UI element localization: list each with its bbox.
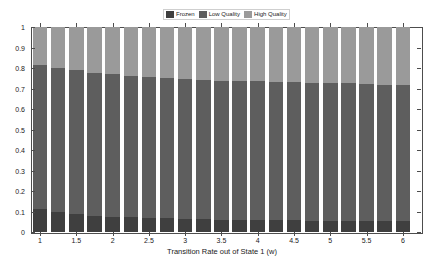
x-tick-mark	[221, 232, 222, 236]
bar-stack	[377, 27, 392, 232]
bar-segment-frozen	[69, 214, 84, 232]
y-tick-label: 0.2	[15, 188, 25, 195]
plot-area: 00.10.20.30.40.50.60.70.80.9111.522.533.…	[31, 27, 421, 232]
x-tick-mark	[403, 232, 404, 236]
bar-segment-low-quality	[124, 76, 139, 218]
bar-segment-frozen	[178, 219, 193, 232]
bar-stack	[87, 27, 102, 232]
legend-swatch-icon	[199, 11, 207, 18]
bar-segment-low-quality	[305, 83, 320, 221]
bar-segment-low-quality	[396, 85, 411, 221]
y-tick-mark-right	[417, 109, 421, 110]
y-tick-mark	[31, 130, 35, 131]
bar-segment-low-quality	[105, 74, 120, 216]
legend-swatch-icon	[166, 11, 174, 18]
bar-segment-low-quality	[51, 68, 66, 213]
bar-segment-frozen	[287, 220, 302, 232]
y-tick-mark-right	[417, 48, 421, 49]
y-tick-label: 0.1	[15, 208, 25, 215]
bar-stack	[51, 27, 66, 232]
x-axis-label: Transition Rate out of State 1 (w)	[0, 247, 444, 256]
bar-stack	[160, 27, 175, 232]
bar-segment-high-quality	[305, 27, 320, 83]
y-tick-label: 0.7	[15, 85, 25, 92]
bar-segment-high-quality	[33, 27, 48, 65]
bar-segment-high-quality	[341, 27, 356, 83]
bar-segment-high-quality	[214, 27, 229, 81]
bar-segment-high-quality	[51, 27, 66, 68]
bar-segment-high-quality	[396, 27, 411, 85]
bar-segment-frozen	[250, 220, 265, 232]
x-tick-label: 4.5	[289, 237, 299, 244]
y-tick-label: 0.9	[15, 44, 25, 51]
x-tick-label: 4	[256, 237, 260, 244]
y-tick-mark-right	[417, 68, 421, 69]
bar-segment-low-quality	[323, 83, 338, 220]
bar-segment-frozen	[196, 219, 211, 232]
bar-segment-high-quality	[359, 27, 374, 84]
x-tick-mark	[330, 232, 331, 236]
x-tick-mark	[40, 232, 41, 236]
y-tick-mark	[31, 171, 35, 172]
x-tick-mark-top	[40, 23, 41, 27]
bar-segment-frozen	[305, 221, 320, 232]
bar-segment-high-quality	[287, 27, 302, 82]
bar-stack	[305, 27, 320, 232]
bar-stack	[250, 27, 265, 232]
bar-stack	[359, 27, 374, 232]
bar-segment-high-quality	[87, 27, 102, 73]
bar-segment-low-quality	[269, 82, 284, 220]
x-tick-mark	[294, 232, 295, 236]
bar-segment-frozen	[377, 221, 392, 232]
bar-segment-frozen	[232, 220, 247, 232]
y-tick-label: 0.8	[15, 65, 25, 72]
bar-segment-frozen	[124, 217, 139, 232]
x-tick-mark	[149, 232, 150, 236]
x-tick-mark-top	[403, 23, 404, 27]
x-tick-mark-top	[330, 23, 331, 27]
bar-stack	[178, 27, 193, 232]
bar-stack	[124, 27, 139, 232]
x-tick-label: 1	[38, 237, 42, 244]
x-tick-mark	[185, 232, 186, 236]
y-tick-mark-right	[417, 232, 421, 233]
bar-stack	[196, 27, 211, 232]
bar-stack	[341, 27, 356, 232]
y-tick-mark	[31, 212, 35, 213]
y-tick-mark-right	[417, 212, 421, 213]
bar-segment-frozen	[269, 220, 284, 232]
legend-label: Low Quality	[209, 11, 240, 18]
bar-stack	[323, 27, 338, 232]
y-tick-mark	[31, 48, 35, 49]
y-tick-label: 0.5	[15, 126, 25, 133]
x-tick-label: 5	[328, 237, 332, 244]
bar-segment-low-quality	[33, 65, 48, 209]
bar-segment-high-quality	[377, 27, 392, 85]
x-tick-mark-top	[367, 23, 368, 27]
x-tick-label: 5.5	[362, 237, 372, 244]
bar-segment-low-quality	[287, 82, 302, 220]
bar-segment-low-quality	[232, 81, 247, 220]
y-tick-mark-right	[417, 171, 421, 172]
bar-stack	[269, 27, 284, 232]
bar-segment-high-quality	[323, 27, 338, 83]
bar-stack	[105, 27, 120, 232]
bar-segment-low-quality	[160, 78, 175, 218]
legend-label: High Quality	[254, 11, 287, 18]
y-tick-mark	[31, 109, 35, 110]
y-tick-mark-right	[417, 27, 421, 28]
bar-segment-low-quality	[142, 77, 157, 218]
x-tick-mark-top	[149, 23, 150, 27]
chart-legend: FrozenLow QualityHigh Quality	[163, 9, 290, 20]
bar-segment-low-quality	[250, 81, 265, 220]
legend-item: Low Quality	[199, 11, 240, 18]
y-tick-mark	[31, 232, 35, 233]
x-tick-mark	[258, 232, 259, 236]
bar-stack	[396, 27, 411, 232]
bar-segment-low-quality	[341, 83, 356, 220]
x-tick-mark	[367, 232, 368, 236]
legend-swatch-icon	[244, 11, 252, 18]
bar-segment-frozen	[87, 216, 102, 232]
bar-stack	[142, 27, 157, 232]
bar-segment-low-quality	[178, 79, 193, 219]
